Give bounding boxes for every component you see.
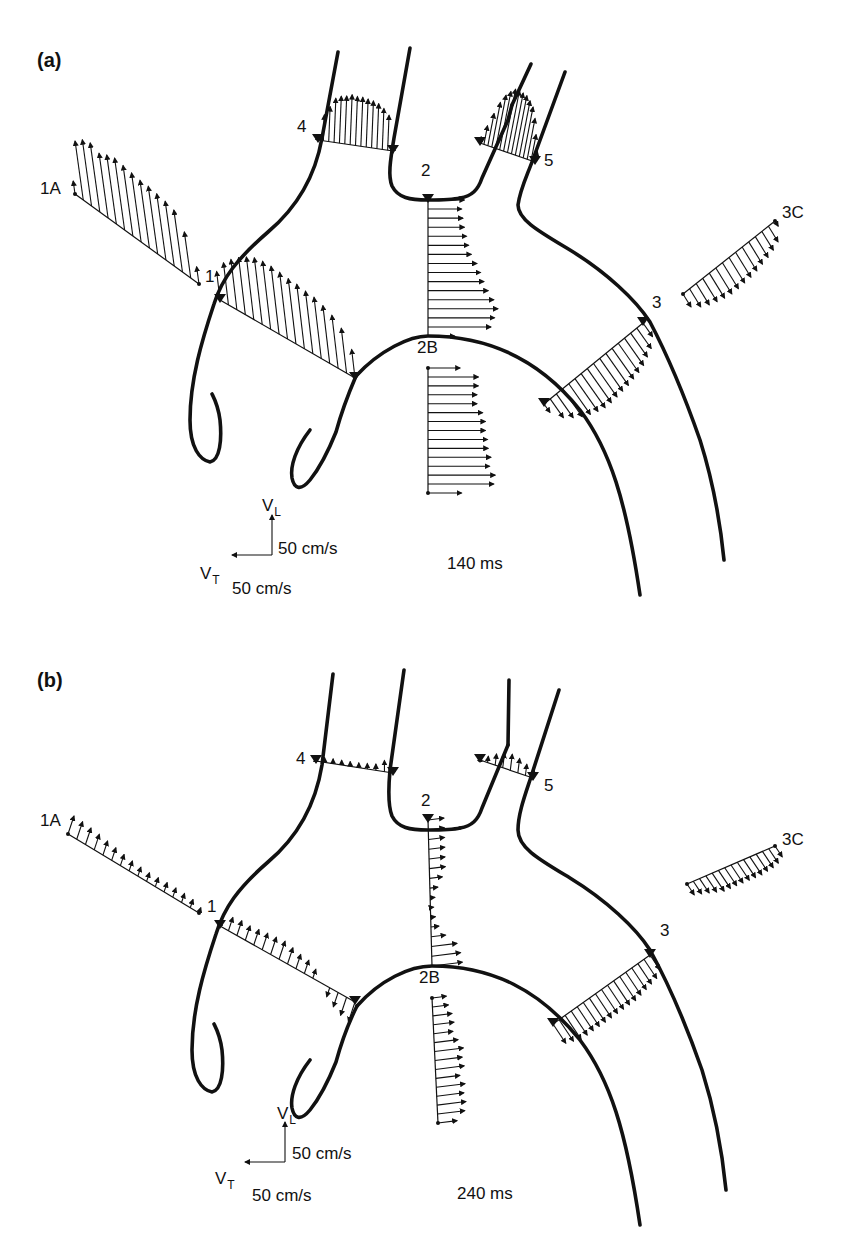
section-marker-icon [422,814,434,823]
station-label-3c: 3C [782,831,804,848]
scale-vt-value-b: 50 cm/s [252,1187,312,1204]
scale-vl-value-b: 50 cm/s [292,1145,352,1162]
vessel-wall [508,680,509,745]
section-marker-icon [214,920,226,929]
vessel-wall [460,745,508,828]
vessel-wall [292,376,356,487]
time-label-a: 140 ms [447,555,503,572]
station-label-3: 3 [660,922,669,939]
velocity-profile-3c [681,219,778,307]
velocity-profile-2b [430,996,466,1125]
vessel-wall [518,690,726,1190]
scale-vl-value-a: 50 cm/s [278,540,338,557]
vessel-wall [190,52,338,462]
station-label-4: 4 [297,118,306,135]
scale-vt-label-b: VT [215,1170,235,1187]
vessel-wall [512,64,531,105]
time-label-b: 240 ms [457,1185,513,1202]
station-label-5: 5 [544,777,553,794]
velocity-profile-3c [685,844,782,895]
aortic-arch-diagram-a [0,0,849,630]
station-label-1: 1 [205,268,214,285]
section-marker-icon [387,145,399,154]
section-marker-icon [547,1018,559,1027]
velocity-profile-2 [422,194,498,336]
velocity-profile-5 [474,89,541,165]
section-marker-icon [538,398,550,407]
velocity-profile-3 [538,317,653,418]
station-label-3: 3 [652,294,661,311]
scale-vt-label-a: VT [200,565,220,582]
velocity-profile-1 [214,917,361,1021]
station-label-5: 5 [544,152,553,169]
station-label-4: 4 [296,750,305,767]
velocity-profile-1a [66,816,201,915]
section-marker-icon [349,372,361,381]
station-label-2: 2 [421,162,430,179]
panel-a: (a) 140 ms VL 50 cm/s VT 50 cm/s 1A14253… [0,0,849,630]
panel-b: (b) 240 ms VL 50 cm/s VT 50 cm/s 1A14253… [0,630,849,1260]
panel-label-b: (b) [37,670,63,690]
velocity-scale-bar [232,515,272,555]
station-label-2b: 2B [417,339,438,356]
station-label-2b: 2B [419,969,440,986]
section-marker-icon [637,317,649,326]
vessel-wall [192,674,333,1092]
station-label-1: 1 [207,898,216,915]
section-marker-icon [310,755,322,764]
velocity-profile-1a [73,140,201,286]
station-label-3c: 3C [782,204,804,221]
velocity-profile-5 [474,753,539,781]
velocity-profile-1 [214,257,361,381]
velocity-profile-3 [547,949,660,1043]
station-label-2: 2 [421,792,430,809]
velocity-profile-2b [426,366,495,495]
station-label-1a: 1A [40,180,61,197]
station-label-1a: 1A [40,812,61,829]
scale-vl-label-b: VL [277,1105,296,1122]
aortic-arch-diagram-b [0,630,849,1260]
velocity-scale-bar [245,1122,285,1162]
scale-vl-label-a: VL [262,497,281,514]
vessel-wall [292,1006,357,1117]
vessel-wall [518,72,724,560]
panel-label-a: (a) [37,50,61,70]
velocity-profile-2 [422,814,462,966]
scale-vt-value-a: 50 cm/s [232,580,292,597]
